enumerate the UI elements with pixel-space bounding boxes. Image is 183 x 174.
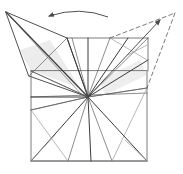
ray-crease-9 <box>88 97 112 161</box>
dashed-flap-right <box>147 13 175 88</box>
ray-crease-13 <box>31 97 88 110</box>
dashed-flap-top <box>110 13 175 38</box>
left-flap-shade <box>20 40 80 88</box>
ray-crease-0 <box>67 38 88 97</box>
bottom-fold-1 <box>31 135 55 161</box>
ray-crease-10 <box>88 97 91 161</box>
ray-crease-11 <box>68 97 88 161</box>
left-flap-crease-2 <box>6 12 82 95</box>
bottom-fold-2 <box>112 88 147 161</box>
rotate-arrow-icon <box>49 11 108 17</box>
left-flap-crease <box>6 12 88 97</box>
bottom-fold-3 <box>125 140 147 161</box>
ray-crease-7 <box>88 88 147 97</box>
bottom-fold-0 <box>31 110 68 161</box>
origami-diagram <box>0 0 183 174</box>
